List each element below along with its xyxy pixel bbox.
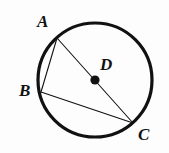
point-label-d: D bbox=[100, 56, 112, 73]
center-point-dot-d bbox=[90, 75, 99, 84]
point-label-b: B bbox=[19, 82, 30, 99]
point-label-c: C bbox=[138, 126, 149, 143]
geometry-figure: A B C D bbox=[0, 0, 169, 153]
point-label-a: A bbox=[37, 13, 48, 30]
